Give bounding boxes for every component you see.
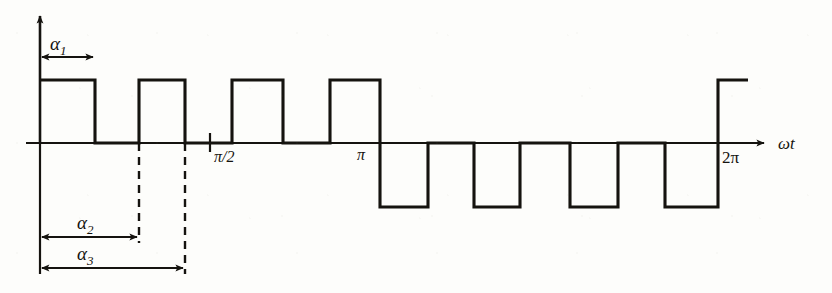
tick-label-two-pi: 2π xyxy=(722,148,740,167)
tick-label-pi-over-2: π/2 xyxy=(214,148,234,165)
pwm-waveform-figure: α1 α2 α3 π/2 π 2π ωt xyxy=(0,0,832,293)
guide-lines-group xyxy=(40,143,185,274)
tick-label-pi: π xyxy=(357,146,366,163)
alpha-2-label: α2 xyxy=(77,212,94,237)
alpha-3-label: α3 xyxy=(77,243,94,268)
dimension-arrows-group xyxy=(42,57,183,268)
labels-group: α1 α2 α3 π/2 π 2π ωt xyxy=(50,33,796,268)
alpha-1-label: α1 xyxy=(50,33,66,58)
waveform-svg: α1 α2 α3 π/2 π 2π ωt xyxy=(0,0,832,293)
axis-group xyxy=(26,16,764,152)
x-axis-label: ωt xyxy=(778,134,796,153)
